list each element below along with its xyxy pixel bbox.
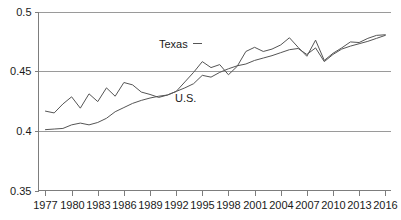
y-tick-label: 0.35 xyxy=(10,185,31,197)
y-tick-label: 0.4 xyxy=(16,125,31,137)
series-line-us xyxy=(45,35,385,129)
axis-group xyxy=(39,12,391,191)
x-tick-label: 1998 xyxy=(216,199,240,211)
series-line-texas xyxy=(45,35,385,113)
line-chart: 0.50.450.40.35 1977198019831986198919921… xyxy=(0,0,401,220)
x-tick-label: 2007 xyxy=(295,199,319,211)
x-tick-label: 1992 xyxy=(164,199,188,211)
x-tick-label: 1986 xyxy=(112,199,136,211)
x-tick-label: 1989 xyxy=(138,199,162,211)
x-tick-label: 1977 xyxy=(33,199,57,211)
x-tick-label: 2013 xyxy=(347,199,371,211)
y-tick-label: 0.5 xyxy=(16,6,31,18)
x-tick-label: 2001 xyxy=(243,199,267,211)
x-axis-tick-labels: 1977198019831986198919921995199820012004… xyxy=(33,199,397,211)
x-tick-label: 1980 xyxy=(60,199,84,211)
tickmark-group xyxy=(35,13,386,196)
series-label-texas: Texas xyxy=(159,38,188,50)
x-tick-label: 2016 xyxy=(373,199,397,211)
y-tick-label: 0.45 xyxy=(10,65,31,77)
data-series-group xyxy=(45,35,385,130)
x-tick-label: 1995 xyxy=(190,199,214,211)
x-tick-label: 1983 xyxy=(86,199,110,211)
series-label-us: U.S. xyxy=(175,92,196,104)
y-axis-tick-labels: 0.50.450.40.35 xyxy=(10,6,31,197)
gridline-group xyxy=(39,13,391,132)
x-tick-label: 2004 xyxy=(269,199,293,211)
chart-canvas: 0.50.450.40.35 1977198019831986198919921… xyxy=(0,0,401,220)
x-tick-label: 2010 xyxy=(321,199,345,211)
